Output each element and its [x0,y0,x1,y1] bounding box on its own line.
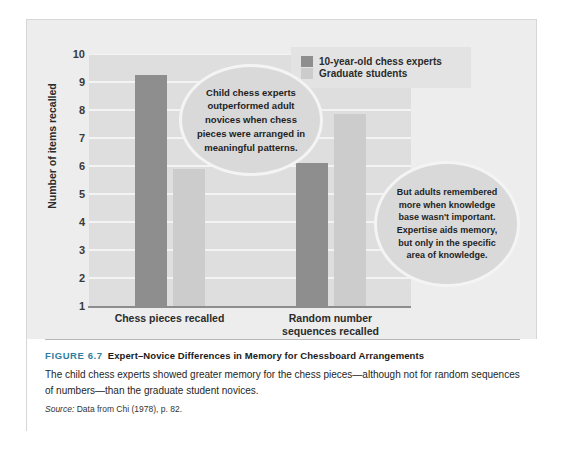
bar [296,163,328,306]
x-axis-category-label: Chess pieces recalled [110,312,230,325]
source-text: Data from Chi (1978), p. 82. [77,404,182,414]
figure-description: The child chess experts showed greater m… [45,367,520,398]
y-axis-tick-label: 10 [61,49,85,60]
callout-bubble-right: But adults remembered more when knowledg… [374,161,520,287]
y-axis-tick-label: 6 [61,161,85,172]
figure-caption-block: FIGURE 6.7Expert–Novice Differences in M… [27,339,538,432]
legend-label-experts: 10-year-old chess experts [319,56,442,67]
bar [173,169,205,306]
bar [135,75,167,306]
y-axis-tick-label: 9 [61,77,85,88]
y-axis-ticks: 12345678910 [55,54,85,306]
figure-title: FIGURE 6.7Expert–Novice Differences in M… [45,350,520,361]
legend-swatch-graduates [301,68,313,79]
y-axis-tick-label: 2 [61,273,85,284]
callout-bubble-left: Child chess experts outperformed adult n… [179,64,323,176]
legend-swatch-experts [301,56,313,67]
source-label: Source: [45,404,74,414]
x-axis-line [88,306,411,308]
bar [334,114,366,306]
figure-title-text: Expert–Novice Differences in Memory for … [108,350,424,361]
y-axis-tick-label: 4 [61,217,85,228]
chart-panel: Number of items recalled 12345678910 Che… [27,20,538,339]
caption-divider [45,339,520,340]
figure-card: Number of items recalled 12345678910 Che… [26,19,537,431]
y-axis-tick-label: 8 [61,105,85,116]
y-axis-tick-label: 3 [61,245,85,256]
chart-legend: 10-year-old chess experts Graduate stude… [291,47,471,88]
figure-source: Source: Data from Chi (1978), p. 82. [45,404,520,414]
y-axis-tick-label: 5 [61,189,85,200]
y-axis-tick-label: 1 [61,301,85,312]
legend-item: 10-year-old chess experts [301,56,463,67]
legend-item: Graduate students [301,68,463,79]
legend-label-graduates: Graduate students [319,68,407,79]
y-axis-tick-label: 7 [61,133,85,144]
figure-number: FIGURE 6.7 [45,350,103,361]
x-axis-category-label: Random number sequences recalled [271,312,391,338]
